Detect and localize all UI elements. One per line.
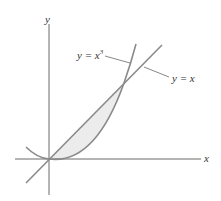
label-cubic: y = x3 (77, 49, 103, 61)
label-cubic-exponent: 3 (100, 48, 104, 56)
leader-line-linear (144, 67, 169, 77)
label-linear: y = x (172, 73, 195, 84)
label-cubic-text: y = x (77, 49, 100, 61)
graph-canvas (0, 0, 221, 201)
diagram: y x y = x3 y = x (0, 0, 221, 201)
line-y-equals-x (26, 45, 162, 183)
leader-line-cubic (105, 56, 130, 63)
x-axis-label: x (204, 153, 209, 164)
y-axis-label: y (45, 14, 50, 25)
